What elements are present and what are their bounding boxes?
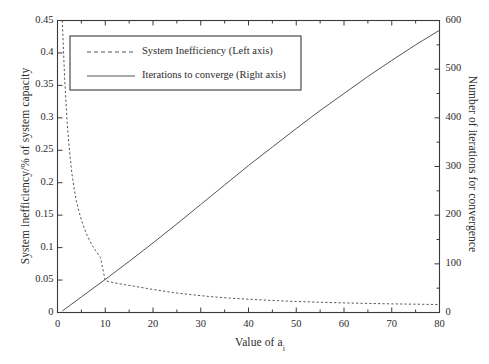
y-tick-label-left: 0.3 — [8, 111, 54, 122]
y-tick-label-left: 0.4 — [8, 46, 54, 57]
y-axis-label-right: Number of iterations for convergence — [467, 39, 479, 289]
y-tick-label-left: 0.05 — [8, 273, 54, 284]
y-tick-label-left: 0.2 — [8, 176, 54, 187]
x-tick-label: 20 — [133, 318, 173, 329]
y-tick-label-right: 200 — [446, 208, 462, 219]
x-tick-label: 0 — [38, 318, 78, 329]
x-tick-label: 30 — [181, 318, 221, 329]
x-tick-label: 40 — [229, 318, 269, 329]
x-tick-label: 60 — [324, 318, 364, 329]
y-tick-label-right: 300 — [446, 160, 462, 171]
x-tick-label: 80 — [420, 318, 460, 329]
y-tick-label-left: 0.45 — [8, 14, 54, 25]
y-tick-label-left: 0.25 — [8, 143, 54, 154]
y-tick-label-left: 0.35 — [8, 78, 54, 89]
x-tick-label: 50 — [276, 318, 316, 329]
chart-figure: System inefficiency/% of system capacity… — [0, 0, 489, 364]
legend-label-1: Iterations to converge (Right axis) — [142, 69, 286, 80]
y-tick-label-right: 400 — [446, 111, 462, 122]
y-tick-label-right: 600 — [446, 14, 462, 25]
y-tick-label-left: 0 — [8, 306, 54, 317]
y-tick-label-left: 0.15 — [8, 208, 54, 219]
y-tick-label-right: 0 — [446, 306, 451, 317]
x-axis-label: Value of ai — [200, 336, 320, 351]
legend-label-0: System Inefficiency (Left axis) — [142, 45, 273, 56]
x-axis-label-main: Value of a — [235, 336, 283, 348]
y-tick-label-right: 100 — [446, 257, 462, 268]
x-tick-label: 10 — [85, 318, 125, 329]
x-tick-label: 70 — [372, 318, 412, 329]
y-tick-label-left: 0.1 — [8, 241, 54, 252]
x-axis-label-subscript: i — [283, 344, 285, 353]
y-tick-label-right: 500 — [446, 62, 462, 73]
